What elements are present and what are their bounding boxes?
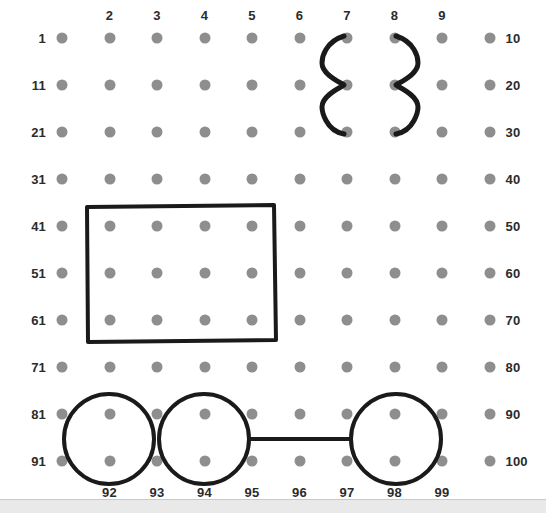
bottom-label-93: 93: [150, 485, 165, 500]
row-end-label-20: 20: [506, 78, 521, 93]
column-header-8: 8: [391, 8, 398, 23]
grid-dot-54: [199, 268, 210, 279]
grid-dot-21: [57, 127, 68, 138]
row-end-label-90: 90: [506, 407, 521, 422]
grid-dot-43: [152, 221, 163, 232]
row-start-label-71: 71: [31, 360, 46, 375]
grid-dot-46: [294, 221, 305, 232]
grid-dot-98: [389, 456, 400, 467]
grid-dot-20: [484, 80, 495, 91]
grid-dot-3: [152, 33, 163, 44]
grid-dot-45: [247, 221, 258, 232]
bottom-label-92: 92: [102, 485, 117, 500]
grid-dot-26: [294, 127, 305, 138]
grid-dot-37: [342, 174, 353, 185]
grid-dot-32: [104, 174, 115, 185]
grid-dot-48: [389, 221, 400, 232]
grid-dot-89: [437, 409, 448, 420]
grid-dot-12: [104, 80, 115, 91]
row-start-label-31: 31: [31, 172, 46, 187]
grid-dot-50: [484, 221, 495, 232]
grid-dot-77: [342, 362, 353, 373]
grid-dot-33: [152, 174, 163, 185]
column-header-4: 4: [201, 8, 208, 23]
row-start-label-51: 51: [31, 266, 46, 281]
grid-dot-99: [437, 456, 448, 467]
row-start-label-1: 1: [39, 31, 46, 46]
grid-dot-69: [437, 315, 448, 326]
grid-dot-76: [294, 362, 305, 373]
grid-dot-38: [389, 174, 400, 185]
grid-dot-27: [342, 127, 353, 138]
grid-dot-19: [437, 80, 448, 91]
row-start-label-21: 21: [31, 125, 46, 140]
grid-dot-79: [437, 362, 448, 373]
grid-dot-31: [57, 174, 68, 185]
grid-dot-51: [57, 268, 68, 279]
grid-dot-23: [152, 127, 163, 138]
grid-dot-36: [294, 174, 305, 185]
grid-dot-74: [199, 362, 210, 373]
grid-dot-82: [104, 409, 115, 420]
row-start-label-61: 61: [31, 313, 46, 328]
bottom-label-94: 94: [197, 485, 212, 500]
grid-dot-73: [152, 362, 163, 373]
grid-dot-47: [342, 221, 353, 232]
bottom-label-97: 97: [340, 485, 355, 500]
row-start-label-41: 41: [31, 219, 46, 234]
grid-dot-57: [342, 268, 353, 279]
hundred-grid-figure: 2345678911121314151617181911020304050607…: [0, 0, 546, 513]
grid-dot-30: [484, 127, 495, 138]
grid-dot-14: [199, 80, 210, 91]
grid-dot-94: [199, 456, 210, 467]
grid-dot-8: [389, 33, 400, 44]
column-header-3: 3: [153, 8, 160, 23]
grid-dot-16: [294, 80, 305, 91]
column-header-2: 2: [106, 8, 113, 23]
row-end-label-10: 10: [506, 31, 521, 46]
grid-dot-70: [484, 315, 495, 326]
grid-dot-58: [389, 268, 400, 279]
grid-dot-90: [484, 409, 495, 420]
grid-dot-66: [294, 315, 305, 326]
row-end-label-30: 30: [506, 125, 521, 140]
bottom-label-99: 99: [435, 485, 450, 500]
grid-dot-34: [199, 174, 210, 185]
grid-dot-9: [437, 33, 448, 44]
grid-dot-15: [247, 80, 258, 91]
column-header-5: 5: [248, 8, 255, 23]
grid-dot-96: [294, 456, 305, 467]
grid-dot-100: [484, 456, 495, 467]
row-end-label-80: 80: [506, 360, 521, 375]
grid-dot-68: [389, 315, 400, 326]
grid-dot-49: [437, 221, 448, 232]
grid-dot-95: [247, 456, 258, 467]
grid-dot-71: [57, 362, 68, 373]
grid-dot-61: [57, 315, 68, 326]
column-header-7: 7: [343, 8, 350, 23]
grid-dot-44: [199, 221, 210, 232]
row-end-label-100: 100: [506, 454, 528, 469]
grid-dot-92: [104, 456, 115, 467]
grid-dot-87: [342, 409, 353, 420]
column-header-9: 9: [438, 8, 445, 23]
grid-dot-53: [152, 268, 163, 279]
grid-dot-80: [484, 362, 495, 373]
grid-dot-52: [104, 268, 115, 279]
grid-dot-28: [389, 127, 400, 138]
grid-dot-64: [199, 315, 210, 326]
grid-dot-1: [57, 33, 68, 44]
row-start-label-91: 91: [31, 454, 46, 469]
grid-dot-85: [247, 409, 258, 420]
grid-dot-35: [247, 174, 258, 185]
grid-dot-4: [199, 33, 210, 44]
grid-dot-39: [437, 174, 448, 185]
dot-grid: 2345678911121314151617181911020304050607…: [0, 0, 546, 513]
grid-dot-2: [104, 33, 115, 44]
grid-dot-22: [104, 127, 115, 138]
grid-dot-56: [294, 268, 305, 279]
grid-dot-86: [294, 409, 305, 420]
row-end-label-40: 40: [506, 172, 521, 187]
grid-dot-13: [152, 80, 163, 91]
row-end-label-70: 70: [506, 313, 521, 328]
